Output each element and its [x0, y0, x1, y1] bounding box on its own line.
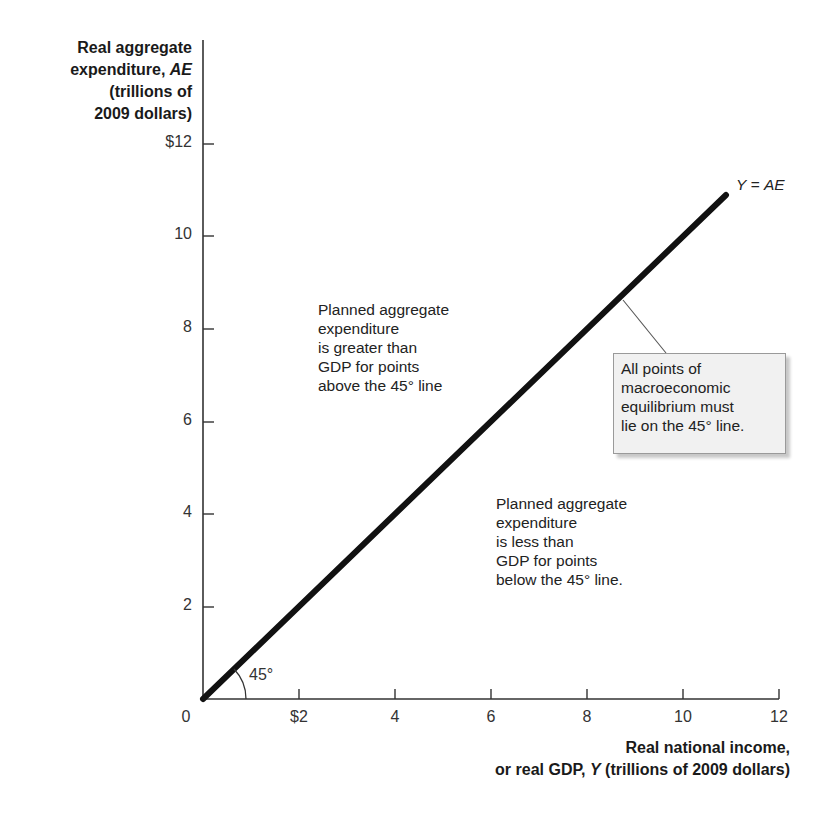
y-axis-title-var: AE	[170, 61, 192, 78]
x-tick-label-4: 4	[391, 708, 400, 726]
callout-line-1: All points of	[621, 359, 779, 378]
y-axis-title-line4: 2009 dollars)	[70, 103, 192, 125]
callout-line-4: lie on the 45° line.	[621, 416, 779, 435]
curve-label-equals: =	[746, 176, 764, 193]
x-axis-title-line1: Real national income,	[495, 737, 790, 759]
x-axis-title-line2: or real GDP, Y (trillions of 2009 dollar…	[495, 759, 790, 781]
x-axis-title: Real national income, or real GDP, Y (tr…	[495, 737, 790, 781]
annotation-below-line-5: below the 45° line.	[496, 570, 627, 589]
y-tick-label-6: 6	[183, 411, 192, 429]
callout-line-3: equilibrium must	[621, 397, 779, 416]
y-axis-ticks	[203, 144, 214, 607]
equilibrium-callout-box: All points of macroeconomic equilibrium …	[613, 353, 786, 454]
y-tick-label-8: 8	[183, 318, 192, 336]
annotation-below-line-2: expenditure	[496, 513, 627, 532]
curve-label: Y = AE	[736, 176, 785, 194]
annotation-above-line: Planned aggregate expenditure is greater…	[318, 300, 449, 395]
curve-label-ae: AE	[764, 176, 785, 193]
y-axis-title-line3: (trillions of	[70, 81, 192, 103]
y-axis-title: Real aggregate expenditure, AE (trillion…	[70, 37, 192, 125]
annotation-above-line-1: Planned aggregate	[318, 300, 449, 319]
x-tick-label-0: 0	[182, 708, 191, 726]
y-tick-label-4: 4	[183, 503, 192, 521]
y-tick-label-2: 2	[183, 596, 192, 614]
annotation-below-line: Planned aggregate expenditure is less th…	[496, 494, 627, 589]
x-tick-label-6: 6	[487, 708, 496, 726]
y-axis-title-line1: Real aggregate	[70, 37, 192, 59]
x-tick-label-2: $2	[290, 708, 308, 726]
x-tick-label-10: 10	[674, 708, 692, 726]
x-tick-label-12: 12	[770, 708, 788, 726]
annotation-below-line-4: GDP for points	[496, 551, 627, 570]
angle-label: 45°	[249, 666, 273, 684]
y-axis-title-line2: expenditure, AE	[70, 59, 192, 81]
x-axis-title-prefix: or real GDP,	[495, 761, 590, 778]
y-tick-label-10: 10	[174, 225, 192, 243]
x-axis-ticks	[299, 689, 779, 699]
callout-line-2: macroeconomic	[621, 378, 779, 397]
y-axis-title-prefix: expenditure,	[70, 61, 170, 78]
annotation-above-line-4: GDP for points	[318, 357, 449, 376]
angle-arc	[234, 669, 246, 699]
x-axis-title-suffix: (trillions of 2009 dollars)	[601, 761, 790, 778]
curve-label-y: Y	[736, 176, 746, 193]
callout-leader-line	[623, 300, 666, 353]
annotation-above-line-2: expenditure	[318, 319, 449, 338]
annotation-below-line-3: is less than	[496, 532, 627, 551]
annotation-above-line-5: above the 45° line	[318, 376, 449, 395]
annotation-below-line-1: Planned aggregate	[496, 494, 627, 513]
x-tick-label-8: 8	[583, 708, 592, 726]
y-tick-label-12: $12	[165, 133, 192, 151]
x-axis-title-var: Y	[590, 761, 601, 778]
annotation-above-line-3: is greater than	[318, 338, 449, 357]
